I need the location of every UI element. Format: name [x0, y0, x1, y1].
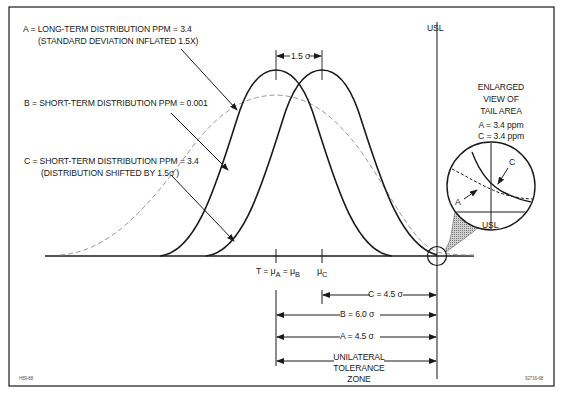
zone-label-2: TOLERANCE	[332, 363, 386, 374]
target-mu-label: T = μA = μB	[256, 266, 300, 277]
target-prefix: T =	[256, 266, 271, 276]
diagram-canvas	[0, 0, 564, 394]
tail-view-title-1: ENLARGED	[474, 82, 528, 93]
tail-view-c-value: C = 3.4 ppm	[470, 131, 532, 142]
zone-label-1: UNILATERAL	[332, 352, 386, 363]
mu-a-symbol: μ	[271, 266, 276, 276]
legend-c-line2: (DISTRIBUTION SHIFTED BY 1.5σ )	[41, 168, 179, 179]
footer-right-code: 92716-68	[525, 373, 543, 384]
dim-c-label: C = 4.5 σ	[368, 289, 403, 300]
mu-c-sub: C	[322, 270, 327, 279]
tail-view-a-value: A = 3.4 ppm	[470, 120, 532, 131]
legend-a-line1: A = LONG-TERM DISTRIBUTION PPM = 3.4	[23, 24, 192, 35]
zone-label-3: ZONE	[332, 374, 386, 385]
tail-view-usl-label: USL	[482, 220, 498, 231]
tail-view-a-marker: A	[455, 197, 461, 208]
mu-b-sub: B	[295, 270, 300, 279]
tail-view-title-2: VIEW OF	[474, 94, 528, 105]
usl-label: USL	[427, 23, 443, 34]
legend-a-line2: (STANDARD DEVIATION INFLATED 1.5X)	[38, 36, 198, 47]
footer-left-code: H89-88	[19, 373, 33, 384]
equals-sign: =	[281, 266, 291, 276]
dim-a-label: A = 4.5 σ	[340, 331, 374, 342]
dim-b-label: B = 6.0 σ	[340, 309, 374, 320]
curve-c-shifted	[206, 70, 437, 256]
tail-view-c-marker: C	[509, 157, 515, 168]
shift-label: 1.5 σ	[291, 51, 310, 62]
mu-a-sub: A	[276, 270, 281, 279]
legend-c-line1: C = SHORT-TERM DISTRIBUTION PPM = 3.4	[24, 156, 199, 167]
leader-arrow-c	[171, 175, 234, 241]
legend-b-line1: B = SHORT-TERM DISTRIBUTION PPM = 0.001	[24, 98, 208, 109]
tail-view-title-3: TAIL AREA	[474, 106, 528, 117]
mu-c-label: μC	[317, 266, 327, 277]
